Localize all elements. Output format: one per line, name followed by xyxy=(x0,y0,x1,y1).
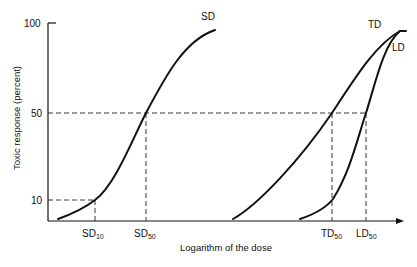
sd-curve xyxy=(58,30,215,219)
dose-response-chart: 100 50 10 Toxic response (percent) Logar… xyxy=(0,0,417,267)
y-tick-100: 100 xyxy=(24,18,41,29)
annotation-ld50: LD50 xyxy=(356,228,377,240)
td-curve xyxy=(233,31,400,219)
curves xyxy=(58,30,406,219)
y-tick-10: 10 xyxy=(31,195,43,206)
annotation-td50: TD50 xyxy=(321,228,342,240)
curve-label-td: TD xyxy=(368,19,381,30)
x-axis-title: Logarithm of the dose xyxy=(180,242,272,253)
ld-curve xyxy=(300,31,406,219)
guide-lines xyxy=(48,113,366,221)
annotation-sd10: SD10 xyxy=(82,228,104,240)
curve-label-ld: LD xyxy=(392,42,405,53)
axes xyxy=(48,23,402,221)
curve-label-sd: SD xyxy=(201,11,215,22)
y-tick-50: 50 xyxy=(31,108,43,119)
y-axis-title: Toxic response (percent) xyxy=(11,66,22,170)
annotation-sd50: SD50 xyxy=(134,228,156,240)
x-axis-arrow-icon xyxy=(396,218,404,224)
